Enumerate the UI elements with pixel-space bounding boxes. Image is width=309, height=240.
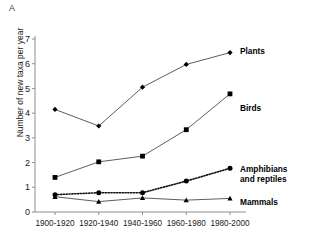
data-point-marker	[140, 154, 145, 159]
line-chart: 01234567 1900-19201920-19401940-19601960…	[0, 0, 309, 240]
series-label-amphibians-and-reptiles: Amphibians	[240, 164, 288, 174]
y-tick-label: 3	[25, 133, 30, 143]
data-point-marker	[227, 50, 232, 55]
y-tick-label: 6	[25, 59, 30, 69]
series-line	[55, 94, 230, 178]
data-point-marker	[184, 127, 189, 132]
y-tick-label: 5	[25, 84, 30, 94]
figure-panel-a: A Number of new taxa per year 01234567 1…	[0, 0, 309, 240]
y-axis-ticks: 01234567	[25, 34, 35, 217]
data-series-group	[52, 50, 232, 204]
data-point-marker	[52, 107, 57, 112]
y-tick-label: 2	[25, 158, 30, 168]
data-point-marker	[53, 175, 58, 180]
y-tick-label: 4	[25, 108, 30, 118]
x-tick-label: 1960-1980	[167, 219, 207, 228]
x-tick-label: 1920-1940	[79, 219, 119, 228]
x-tick-label: 1940-1960	[123, 219, 163, 228]
data-point-marker	[140, 190, 145, 195]
x-tick-label: 1900-1920	[35, 219, 75, 228]
data-point-marker	[228, 91, 233, 96]
data-point-marker	[96, 159, 101, 164]
x-axis-ticks: 1900-19201920-19401940-19601960-19801980…	[35, 212, 250, 228]
series-label-amphibians-and-reptiles: and reptiles	[240, 174, 287, 184]
series-label-mammals: Mammals	[240, 197, 278, 207]
series-labels-group: PlantsBirdsAmphibiansand reptilesMammals	[240, 46, 288, 207]
y-tick-label: 0	[25, 207, 30, 217]
data-point-marker	[228, 166, 233, 171]
data-point-marker	[184, 62, 189, 67]
data-point-marker	[96, 190, 101, 195]
data-point-marker	[184, 179, 189, 184]
series-label-plants: Plants	[240, 46, 265, 56]
x-tick-label: 1980-2000	[210, 219, 250, 228]
series-label-birds: Birds	[240, 103, 262, 113]
y-tick-label: 1	[25, 182, 30, 192]
y-tick-label: 7	[25, 34, 30, 44]
